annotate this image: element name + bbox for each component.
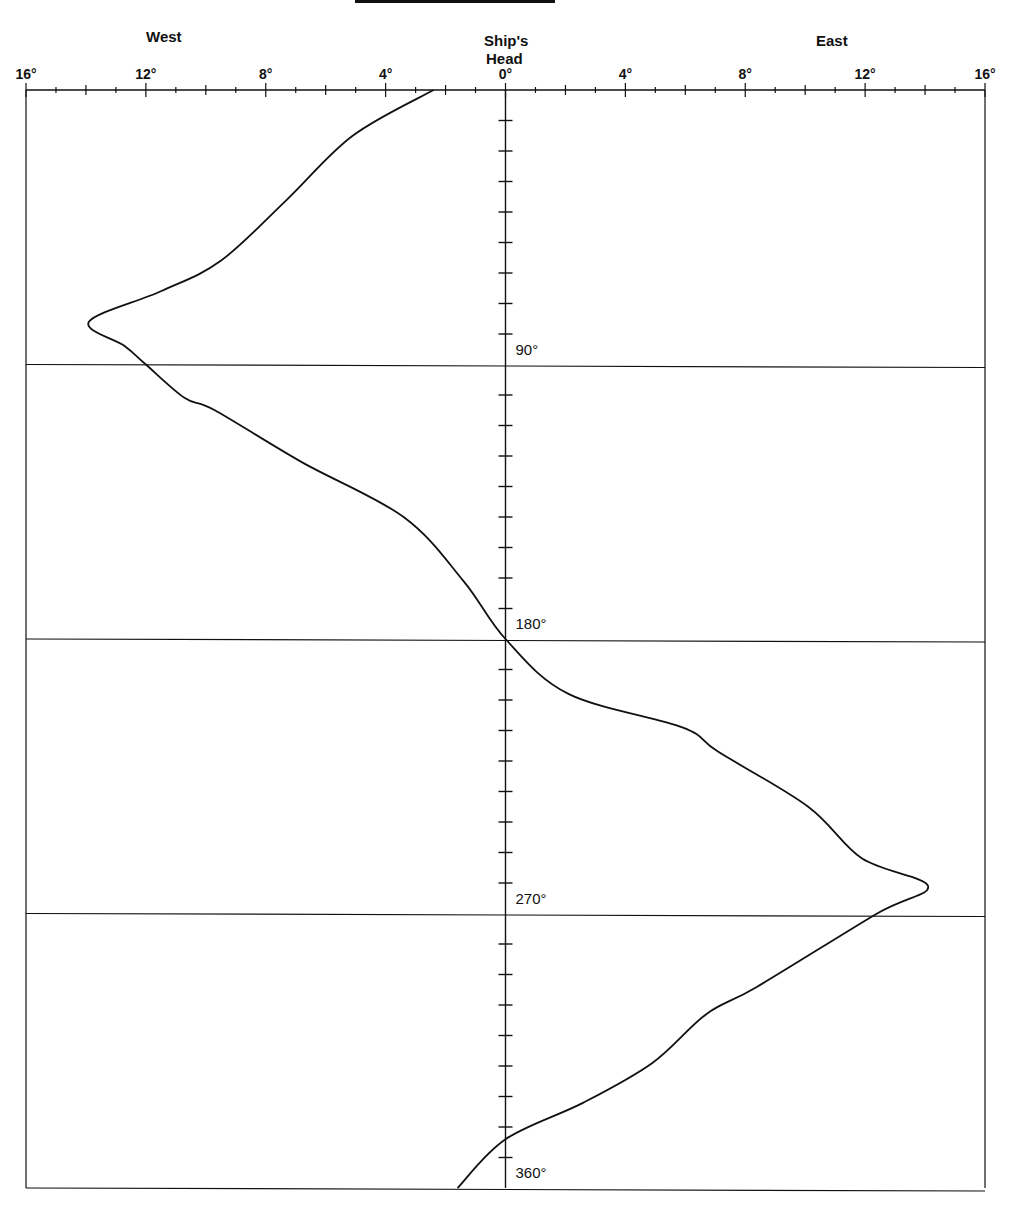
deviation-chart [0, 0, 1013, 1210]
heading-gridline-360 [26, 1188, 985, 1191]
